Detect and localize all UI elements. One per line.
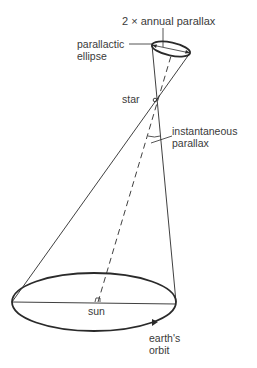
star-label: star: [122, 94, 140, 105]
annual-parallax-label: 2 × annual parallax: [122, 16, 215, 27]
orbit-diameter-line: [12, 302, 176, 304]
parallactic-ellipse-label-line1: parallactic: [77, 39, 124, 50]
parallactic-ellipse-label-line2: ellipse: [77, 51, 107, 62]
cone-line-right: [152, 45, 176, 302]
earths-orbit-label-line1: earth's: [149, 333, 180, 344]
instantaneous-parallax-label-line2: parallax: [172, 138, 209, 149]
instantaneous-parallax-arc: [148, 136, 160, 137]
parallax-diagram: [0, 0, 257, 368]
earths-orbit-label-line2: orbit: [149, 345, 169, 356]
cone-line-left: [12, 53, 190, 302]
instantaneous-parallax-label-line1: instantaneous: [172, 126, 237, 137]
sun-label: sun: [88, 306, 105, 317]
